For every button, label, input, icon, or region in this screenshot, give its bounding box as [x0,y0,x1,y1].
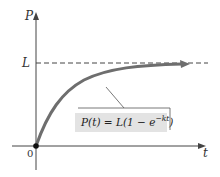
origin-label: 0 [27,148,33,159]
y-axis-label: P [24,9,34,23]
x-axis-label: t [203,146,208,160]
leader-line [106,87,124,108]
growth-curve [36,64,182,146]
origin-dot [33,143,39,149]
logistic-growth-diagram: P(t) = L(1 − e−kt) P t L 0 [0,0,220,177]
curve-arrow-icon [180,60,190,68]
limit-label: L [21,56,30,70]
y-axis-arrow-icon [33,12,39,20]
